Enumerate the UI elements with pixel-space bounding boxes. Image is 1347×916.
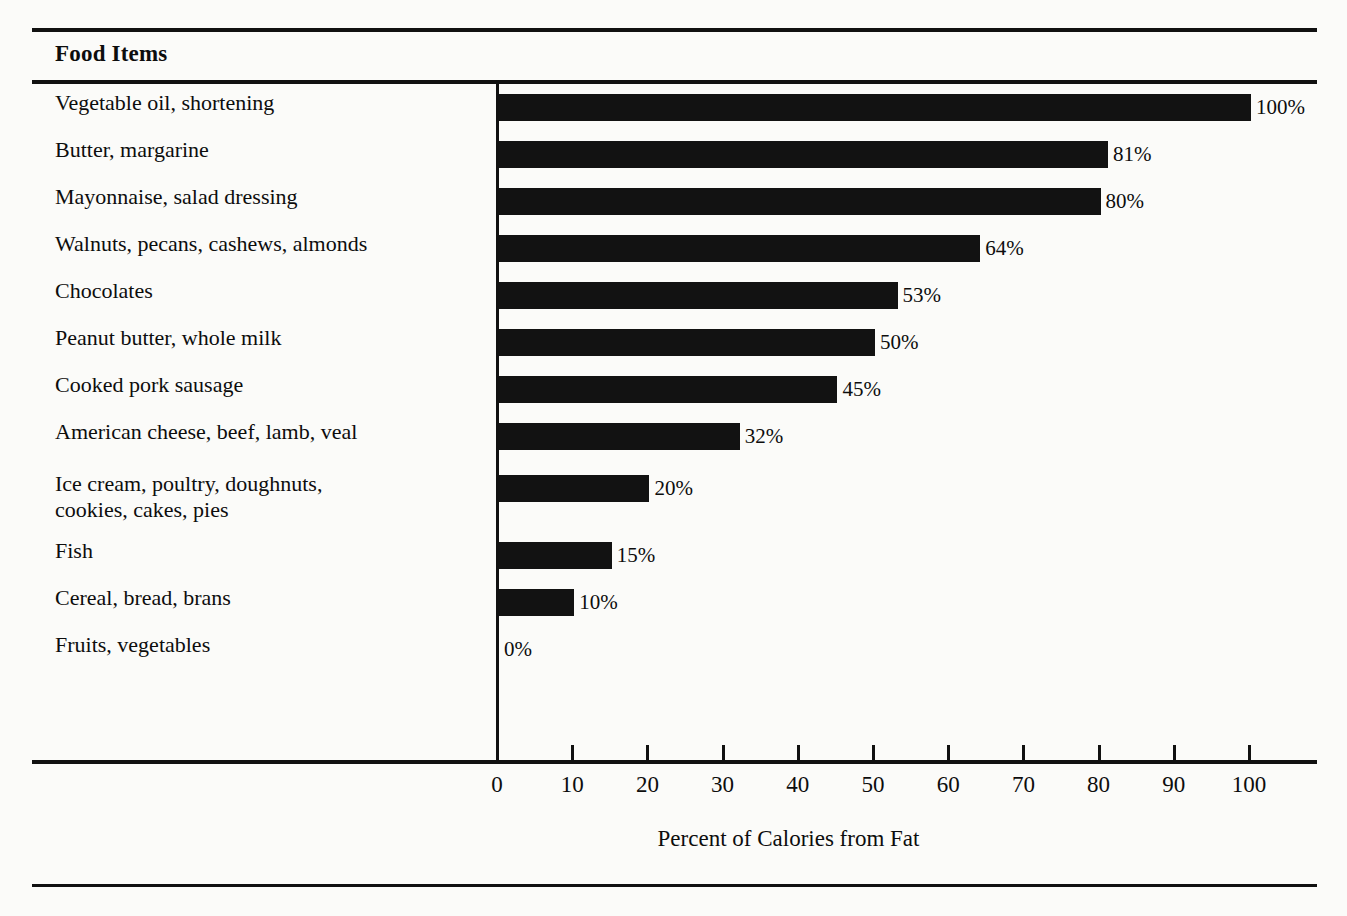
bar-group: 53% <box>499 282 941 309</box>
row-label: Peanut butter, whole milk <box>55 325 485 351</box>
x-axis-tick-label: 40 <box>786 772 809 798</box>
x-axis-tick-label: 80 <box>1087 772 1110 798</box>
x-axis-tick-label: 20 <box>636 772 659 798</box>
row-label: Mayonnaise, salad dressing <box>55 184 485 210</box>
chart-row: Cooked pork sausage45% <box>0 366 1347 413</box>
bar-value-label: 81% <box>1113 141 1152 168</box>
bar <box>499 542 612 569</box>
row-label: Fruits, vegetables <box>55 632 485 658</box>
row-label: Vegetable oil, shortening <box>55 90 485 116</box>
bar-value-label: 100% <box>1256 94 1305 121</box>
x-axis-tick-label: 70 <box>1012 772 1035 798</box>
chart-row: Ice cream, poultry, doughnuts, cookies, … <box>0 460 1347 532</box>
top-rule <box>32 28 1317 32</box>
x-axis-tick-label: 90 <box>1162 772 1185 798</box>
bar <box>499 94 1251 121</box>
x-axis-tick <box>1022 745 1025 761</box>
x-axis-tick-label: 0 <box>491 772 503 798</box>
bar-group: 20% <box>499 475 693 502</box>
bar-value-label: 80% <box>1106 188 1145 215</box>
chart-row: Vegetable oil, shortening100% <box>0 84 1347 131</box>
bar-value-label: 20% <box>654 475 693 502</box>
bar-rows: Vegetable oil, shortening100%Butter, mar… <box>0 84 1347 673</box>
x-axis-tick <box>872 745 875 761</box>
x-axis-tick-label: 50 <box>862 772 885 798</box>
row-label: Walnuts, pecans, cashews, almonds <box>55 231 485 257</box>
bar-value-label: 64% <box>985 235 1024 262</box>
bar <box>499 282 898 309</box>
chart-row: Butter, margarine81% <box>0 131 1347 178</box>
bar-group: 32% <box>499 423 783 450</box>
bar <box>499 235 980 262</box>
x-axis-tick <box>1173 745 1176 761</box>
chart-row: Cereal, bread, brans10% <box>0 579 1347 626</box>
bar-group: 45% <box>499 376 881 403</box>
row-label: Cooked pork sausage <box>55 372 485 398</box>
bar-value-label: 32% <box>745 423 784 450</box>
bar-group: 15% <box>499 542 655 569</box>
bar <box>499 188 1101 215</box>
bar-value-label: 0% <box>504 636 532 663</box>
bar <box>499 141 1108 168</box>
bar <box>499 329 875 356</box>
x-axis-tick-label: 10 <box>561 772 584 798</box>
bar-value-label: 45% <box>842 376 881 403</box>
chart-row: Chocolates53% <box>0 272 1347 319</box>
x-axis-title-text: Percent of Calories from Fat <box>658 826 920 851</box>
x-axis-title: Percent of Calories from Fat <box>0 826 1347 852</box>
x-axis-tick <box>571 745 574 761</box>
bar <box>499 475 649 502</box>
row-label: Butter, margarine <box>55 137 485 163</box>
bar-group: 80% <box>499 188 1144 215</box>
row-label: Cereal, bread, brans <box>55 585 485 611</box>
row-label: Fish <box>55 538 485 564</box>
bar-group: 64% <box>499 235 1024 262</box>
x-axis-tick <box>722 745 725 761</box>
x-axis-tick-label: 30 <box>711 772 734 798</box>
x-axis-line <box>32 760 1317 764</box>
row-label: Ice cream, poultry, doughnuts, cookies, … <box>55 471 485 523</box>
x-axis-tick <box>1098 745 1101 761</box>
bar-value-label: 15% <box>617 542 656 569</box>
x-axis-tick-label: 60 <box>937 772 960 798</box>
x-axis-tick <box>797 745 800 761</box>
x-axis-tick <box>1248 745 1251 761</box>
bar-value-label: 10% <box>579 589 618 616</box>
chart-row: American cheese, beef, lamb, veal32% <box>0 413 1347 460</box>
bar-group: 0% <box>499 636 532 663</box>
chart-row: Fruits, vegetables0% <box>0 626 1347 673</box>
bar <box>499 376 837 403</box>
bar <box>499 589 574 616</box>
bar-group: 100% <box>499 94 1305 121</box>
row-label: Chocolates <box>55 278 485 304</box>
chart-page: Food Items Vegetable oil, shortening100%… <box>0 0 1347 916</box>
bottom-rule <box>32 884 1317 887</box>
chart-row: Mayonnaise, salad dressing80% <box>0 178 1347 225</box>
bar-value-label: 50% <box>880 329 919 356</box>
x-axis-tick-label: 100 <box>1232 772 1267 798</box>
bar-group: 10% <box>499 589 618 616</box>
chart-row: Walnuts, pecans, cashews, almonds64% <box>0 225 1347 272</box>
column-header-food-items: Food Items <box>55 41 168 67</box>
row-label: American cheese, beef, lamb, veal <box>55 419 485 445</box>
bar-value-label: 53% <box>903 282 942 309</box>
x-axis-tick <box>947 745 950 761</box>
x-axis-tick <box>646 745 649 761</box>
bar-group: 50% <box>499 329 919 356</box>
bar <box>499 423 740 450</box>
chart-row: Peanut butter, whole milk50% <box>0 319 1347 366</box>
chart-row: Fish15% <box>0 532 1347 579</box>
bar-group: 81% <box>499 141 1152 168</box>
